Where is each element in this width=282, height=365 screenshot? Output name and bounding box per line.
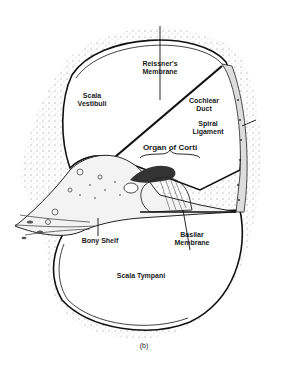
cochlea-diagram	[0, 0, 282, 365]
label-scala-vestibuli: Scala Vestibuli	[70, 92, 114, 108]
label-reissners-membrane: Reissner's Membrane	[138, 60, 182, 76]
label-basilar-membrane: Basilar Membrane	[170, 231, 214, 247]
caption: (b)	[134, 342, 154, 350]
label-scala-tympani: Scala Tympani	[106, 272, 176, 280]
label-spiral-ligament: Spiral Ligament	[186, 120, 230, 136]
label-cochlear-duct: Cochlear Duct	[184, 97, 224, 113]
label-organ-of-corti: Organ of Corti	[130, 144, 210, 152]
label-bony-shelf: Bony Shelf	[78, 237, 122, 245]
